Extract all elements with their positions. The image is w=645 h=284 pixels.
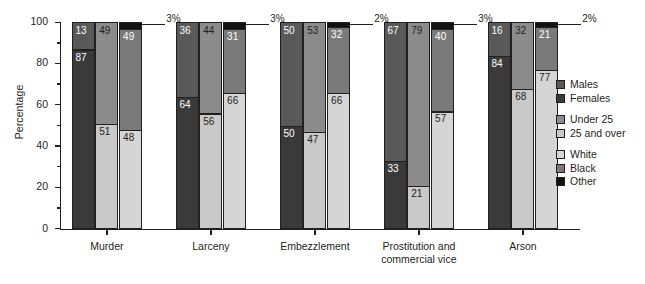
segment-divider	[224, 29, 245, 30]
y-tick-minor	[57, 166, 61, 167]
y-tick-minor	[57, 42, 61, 43]
segment-value-label: 87	[73, 52, 94, 63]
y-tick-major	[55, 104, 60, 105]
legend-item-white: White	[556, 148, 625, 162]
segment-white	[224, 93, 245, 228]
x-tick-label: Embezzlement	[255, 240, 375, 253]
segment-under-25	[408, 23, 429, 186]
segment-25-and-over	[200, 114, 221, 229]
legend-label: Black	[570, 162, 596, 176]
segment-divider	[385, 161, 406, 162]
y-tick-major	[55, 228, 60, 229]
segment-value-label: 57	[432, 113, 453, 124]
segment-divider	[177, 97, 198, 98]
segment-divider	[73, 49, 94, 50]
legend: MalesFemalesUnder 2525 and overWhiteBlac…	[556, 78, 625, 197]
y-tick-label: 80	[0, 56, 48, 68]
bar-age-1: 5149	[95, 22, 118, 228]
segment-divider	[408, 186, 429, 187]
segment-divider	[536, 70, 557, 71]
segment-value-label: 50	[281, 25, 302, 36]
callout-leader-line	[245, 24, 269, 25]
legend-item-males: Males	[556, 78, 625, 92]
callout-leader-line	[453, 24, 477, 25]
legend-group-3: WhiteBlackOther	[556, 148, 625, 189]
y-tick-major	[55, 145, 60, 146]
x-tick-label: Murder	[47, 240, 167, 253]
legend-label: Under 25	[570, 113, 613, 127]
bar-sex-2: 6436	[176, 22, 199, 228]
segment-25-and-over	[304, 133, 325, 229]
x-axis-line	[60, 229, 580, 230]
segment-value-label: 67	[385, 25, 406, 36]
segment-white	[536, 71, 557, 229]
segment-value-label: 21	[536, 29, 557, 40]
segment-divider	[281, 126, 302, 127]
x-tick	[210, 230, 211, 235]
legend-label: White	[570, 148, 597, 162]
bar-sex-3: 5050	[280, 22, 303, 228]
bar-race-4: 5740	[431, 22, 454, 228]
segment-divider	[120, 130, 141, 131]
callout-label-other: 2%	[374, 13, 388, 24]
y-tick-label: 0	[0, 222, 48, 234]
callout-label-other: 3%	[478, 13, 492, 24]
segment-value-label: 33	[385, 163, 406, 174]
bar-race-2: 6631	[223, 22, 246, 228]
segment-under-25	[304, 23, 325, 132]
x-tick-label: Arson	[463, 240, 583, 253]
segment-value-label: 79	[408, 25, 429, 36]
segment-value-label: 48	[120, 132, 141, 143]
y-tick-minor	[57, 125, 61, 126]
segment-divider	[432, 111, 453, 112]
segment-under-25	[200, 23, 221, 114]
segment-divider	[224, 93, 245, 94]
legend-item-other: Other	[556, 175, 625, 189]
legend-swatch-icon	[556, 129, 565, 138]
segment-value-label: 66	[224, 95, 245, 106]
callout-leader-line	[557, 24, 581, 25]
segment-divider	[120, 29, 141, 30]
y-tick-minor	[57, 83, 61, 84]
segment-females	[281, 126, 302, 228]
legend-label: Males	[570, 78, 598, 92]
x-tick	[418, 230, 419, 235]
bar-sex-1: 8713	[72, 22, 95, 228]
segment-females	[489, 56, 510, 228]
segment-divider	[200, 113, 221, 114]
segment-value-label: 77	[536, 72, 557, 83]
bar-race-1: 4849	[119, 22, 142, 228]
segment-value-label: 66	[328, 95, 349, 106]
segment-divider	[328, 93, 349, 94]
y-tick-label: 40	[0, 139, 48, 151]
x-tick	[314, 230, 315, 235]
legend-group-2: Under 2525 and over	[556, 113, 625, 140]
segment-divider	[489, 56, 510, 57]
legend-item-black: Black	[556, 162, 625, 176]
y-tick-major	[55, 22, 60, 23]
segment-value-label: 53	[304, 25, 325, 36]
legend-item-25-and-over: 25 and over	[556, 127, 625, 141]
segment-value-label: 36	[177, 25, 198, 36]
stacked-bar-chart: Percentage 020406080100 8713514948496436…	[0, 0, 645, 284]
callout-label-other: 2%	[582, 13, 596, 24]
legend-item-under-25: Under 25	[556, 113, 625, 127]
segment-black	[120, 29, 141, 130]
x-tick	[522, 230, 523, 235]
y-tick-major	[55, 63, 60, 64]
segment-value-label: 32	[328, 29, 349, 40]
y-tick-minor	[57, 207, 61, 208]
legend-label: Other	[570, 175, 596, 189]
y-tick-label: 100	[0, 15, 48, 27]
segment-value-label: 13	[73, 25, 94, 36]
segment-white	[328, 93, 349, 228]
legend-swatch-icon	[556, 164, 565, 173]
segment-white	[432, 112, 453, 229]
segment-value-label: 40	[432, 31, 453, 42]
x-tick-label: Prostitution andcommercial vice	[359, 240, 479, 265]
segment-value-label: 68	[512, 91, 533, 102]
callout-label-other: 3%	[166, 13, 180, 24]
legend-swatch-icon	[556, 177, 565, 186]
legend-item-females: Females	[556, 92, 625, 106]
callout-leader-line	[349, 24, 373, 25]
